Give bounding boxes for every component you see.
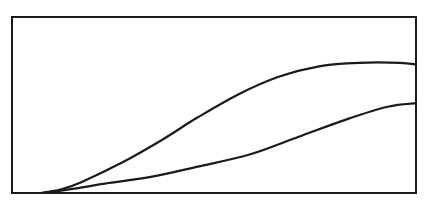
line-chart	[0, 0, 434, 212]
plot-frame	[12, 17, 416, 193]
upper-curve-line	[40, 62, 416, 193]
lower-curve-line	[44, 103, 416, 193]
